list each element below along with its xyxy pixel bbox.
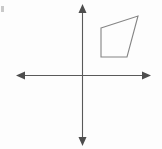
y-axis-up-arrow-icon	[79, 4, 87, 13]
y-axis-down-arrow-icon	[79, 137, 87, 146]
edge-speck-mark	[1, 6, 4, 12]
coordinate-plane-figure: Coordinate plane with quadrilateral in f…	[0, 0, 162, 149]
x-axis-left-arrow-icon	[16, 72, 25, 80]
x-axis-right-arrow-icon	[142, 72, 151, 80]
quadrilateral-shape	[101, 16, 138, 57]
figure-canvas	[0, 0, 162, 149]
